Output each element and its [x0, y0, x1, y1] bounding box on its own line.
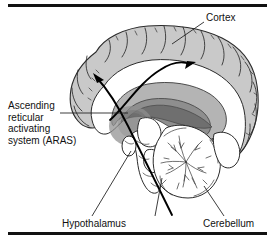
label-aras-line1: Ascending [8, 100, 55, 111]
label-aras-line2: reticular [8, 112, 44, 123]
cerebellum-leader [204, 186, 224, 216]
top-rule [8, 4, 267, 7]
label-cortex: Cortex [206, 12, 235, 23]
label-aras-line4: system (ARAS) [8, 135, 76, 146]
label-aras-line3: activating [8, 123, 50, 134]
label-aras: Ascendingreticularactivatingsystem (ARAS… [8, 100, 76, 146]
aras-brain-figure: Cortex Ascendingreticularactivatingsyste… [0, 0, 275, 244]
hypothalamus-leader [92, 151, 131, 216]
bottom-rule [8, 232, 267, 235]
label-hypothalamus: Hypothalamus [62, 218, 126, 229]
label-cerebellum: Cerebellum [203, 218, 254, 229]
